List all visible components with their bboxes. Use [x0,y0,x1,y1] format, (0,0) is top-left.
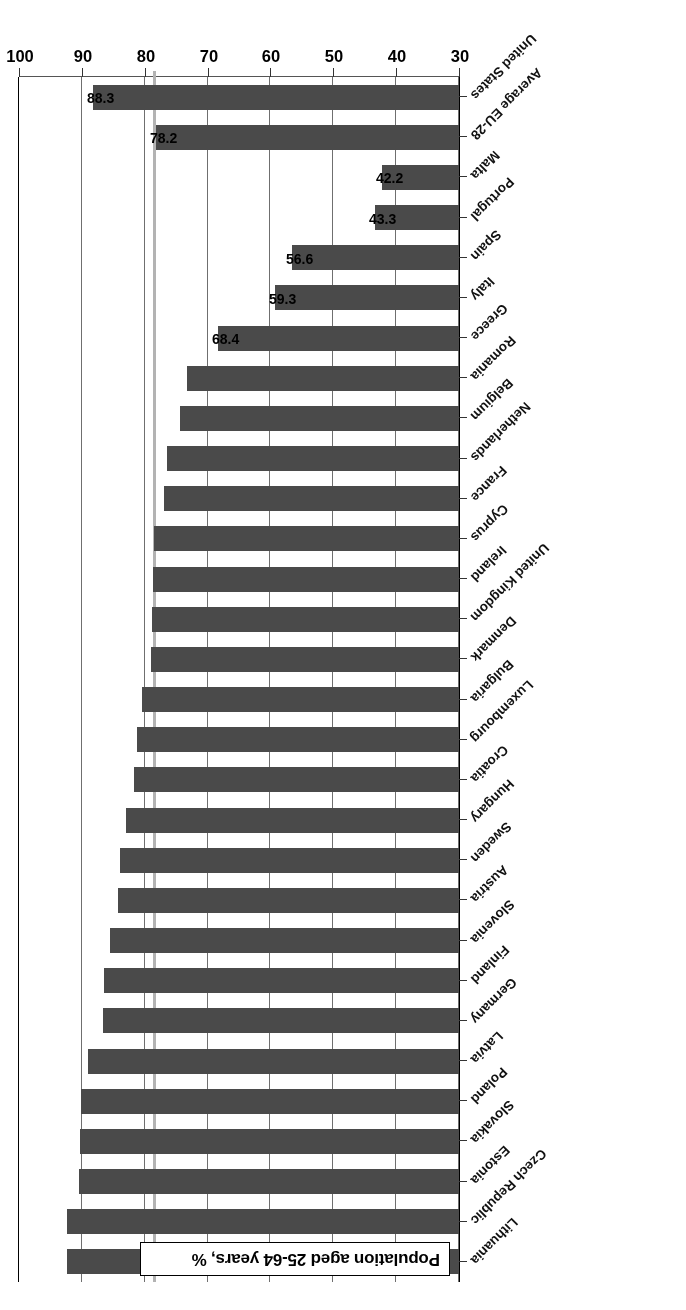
category-tickmark [459,578,467,579]
category-tickmark [459,819,467,820]
bar-row: Estonia [19,1162,459,1202]
bar-row: Malta42.2 [19,157,459,197]
bar-germany[interactable] [103,1008,459,1033]
bar-austria[interactable] [118,888,459,913]
bar-row: Poland [19,1081,459,1121]
bar-average-eu-28[interactable] [156,125,459,150]
axis-tick-label-70: 70 [199,47,217,66]
bar-bulgaria[interactable] [142,687,459,712]
value-label-united-states: 88.3 [87,90,114,106]
bar-belgium[interactable] [180,406,459,431]
bar-croatia[interactable] [134,767,459,792]
bar-italy[interactable] [275,285,459,310]
category-tickmark [459,1060,467,1061]
bar-row: Slovenia [19,921,459,961]
category-tickmark [459,538,467,539]
category-tickmark [459,940,467,941]
category-label-france: France [468,463,510,505]
bar-row: Spain56.6 [19,238,459,278]
category-tickmark [459,618,467,619]
category-tickmark [459,1261,467,1262]
axis-tick-label-50: 50 [325,47,343,66]
axis-tickmark-90 [82,68,83,77]
category-tickmark [459,498,467,499]
category-tickmark [459,257,467,258]
bar-poland[interactable] [81,1089,459,1114]
axis-tick-label-40: 40 [388,47,406,66]
category-tickmark [459,1140,467,1141]
bar-united-kingdom[interactable] [152,607,459,632]
axis-tickmark-80 [145,68,146,77]
bar-estonia[interactable] [79,1169,459,1194]
bar-sweden[interactable] [120,848,459,873]
bar-netherlands[interactable] [167,446,459,471]
bar-czech-republic[interactable] [67,1209,459,1234]
bar-greece[interactable] [218,326,459,351]
axis-tick-label-100: 100 [6,47,34,66]
category-tickmark [459,176,467,177]
bar-row: Croatia [19,760,459,800]
category-tickmark [459,1020,467,1021]
bar-row: Greece68.4 [19,318,459,358]
value-label-average-eu-28: 78.2 [150,130,177,146]
bar-row: Ireland [19,559,459,599]
category-tickmark [459,1181,467,1182]
bar-latvia[interactable] [88,1049,459,1074]
bar-slovenia[interactable] [110,928,459,953]
category-tickmark [459,1100,467,1101]
axis-tick-label-30: 30 [451,47,469,66]
category-label-average-eu-28: Average EU-28 [468,65,546,143]
category-label-portugal: Portugal [468,174,517,223]
bar-cyprus[interactable] [154,526,459,551]
category-label-latvia: Latvia [468,1029,506,1067]
category-label-malta: Malta [468,148,503,183]
value-label-italy: 59.3 [269,291,296,307]
bar-row: Luxembourg [19,720,459,760]
axis-tickmark-40 [396,68,397,77]
value-label-spain: 56.6 [286,251,313,267]
bar-row: Cyprus [19,519,459,559]
bar-row: Sweden [19,840,459,880]
chart-stage: LithuaniaCzech RepublicEstoniaSlovakiaPo… [0,0,686,1310]
bar-luxembourg[interactable] [137,727,459,752]
category-label-spain: Spain [468,227,505,264]
category-tickmark [459,779,467,780]
bar-slovakia[interactable] [80,1129,459,1154]
category-tickmark [459,337,467,338]
category-label-united-kingdom: United Kingdom [468,541,552,625]
category-tickmark [459,658,467,659]
bar-row: France [19,479,459,519]
category-tickmark [459,899,467,900]
category-tickmark [459,377,467,378]
bar-row: Netherlands [19,439,459,479]
bar-row: Romania [19,358,459,398]
bar-ireland[interactable] [153,567,459,592]
bar-france[interactable] [164,486,459,511]
bar-row: Latvia [19,1041,459,1081]
category-tickmark [459,458,467,459]
category-tickmark [459,1221,467,1222]
chart-title-box: Population aged 25-64 years, % [140,1242,450,1276]
bar-row: Italy59.3 [19,278,459,318]
value-label-portugal: 43.3 [369,211,396,227]
category-label-sweden: Sweden [468,819,515,866]
bar-united-states[interactable] [93,85,459,110]
axis-tick-label-90: 90 [74,47,92,66]
value-label-greece: 68.4 [212,331,239,347]
bar-spain[interactable] [292,245,459,270]
plot-area: LithuaniaCzech RepublicEstoniaSlovakiaPo… [19,77,460,1282]
bar-hungary[interactable] [127,808,460,833]
category-tickmark [459,699,467,700]
axis-tick-label-80: 80 [137,47,155,66]
bar-row: Belgium [19,398,459,438]
axis-tickmark-30 [459,68,460,77]
bar-row: Bulgaria [19,680,459,720]
bar-row: United Kingdom [19,599,459,639]
bar-row: Slovakia [19,1121,459,1161]
bar-denmark[interactable] [151,647,459,672]
bar-romania[interactable] [187,366,459,391]
bar-row: Portugal43.3 [19,198,459,238]
category-tickmark [459,739,467,740]
category-label-italy: Italy [468,274,498,304]
bar-finland[interactable] [105,968,460,993]
